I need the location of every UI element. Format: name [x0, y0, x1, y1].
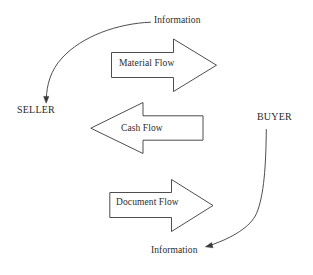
information-to-seller-arrowhead: [44, 96, 49, 103]
information-from-buyer-arrowhead: [205, 243, 213, 248]
material-flow-label: Material Flow: [119, 58, 174, 68]
information-label-bottom: Information: [151, 245, 197, 255]
node-label-seller: SELLER: [17, 104, 55, 115]
information-label-top: Information: [154, 15, 200, 25]
information-from-buyer-arrow: [205, 130, 266, 248]
cash-flow-label: Cash Flow: [121, 123, 163, 133]
document-flow-label: Document Flow: [116, 197, 179, 207]
flow-diagram: SELLER BUYER Information Information Mat…: [0, 0, 313, 275]
node-label-buyer: BUYER: [257, 111, 292, 122]
diagram-canvas: [0, 0, 313, 275]
information-from-buyer-curve: [211, 130, 267, 246]
